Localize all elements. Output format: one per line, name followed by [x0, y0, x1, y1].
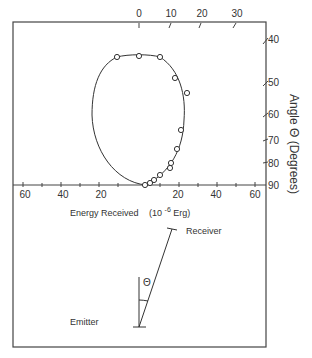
theta-label: Θ [143, 277, 151, 288]
x-axis-unit: (10 [149, 208, 162, 218]
data-points [114, 53, 189, 187]
data-point [136, 53, 141, 58]
top-tick-label: 0 [136, 8, 142, 19]
data-point [168, 160, 173, 165]
right-tick-label: 90 [268, 180, 280, 191]
bottom-tick-label: 40 [57, 189, 69, 200]
data-point [147, 180, 152, 185]
data-point [157, 172, 162, 177]
x-axis-unit-suffix: Erg) [173, 208, 190, 218]
bottom-tick-label: 20 [172, 189, 184, 200]
y-axis-title: Angle Θ (Degrees) [287, 94, 301, 194]
right-tick-label: 40 [268, 34, 280, 45]
right-tick-label: 80 [268, 158, 280, 169]
right-tick-label: 50 [268, 77, 280, 88]
right-tick-label: 70 [268, 135, 280, 146]
bottom-tick-label: 60 [19, 189, 31, 200]
data-point [174, 146, 179, 151]
data-point [178, 127, 183, 132]
chart-figure: 0 10 20 30 40 50 60 70 80 90 Angle Θ (De… [0, 0, 312, 358]
bottom-axis-labels: 60 40 20 20 40 60 [19, 189, 261, 200]
top-axis [139, 23, 236, 28]
data-point [114, 54, 119, 59]
right-axis-labels: 40 50 60 70 80 90 [268, 34, 280, 191]
receiver-label: Receiver [186, 226, 222, 236]
x-axis-title: Energy Received (10 -6 Erg) [70, 204, 190, 218]
data-point [157, 54, 162, 59]
top-tick-label: 20 [196, 8, 208, 19]
data-point [184, 90, 189, 95]
emitter-label: Emitter [70, 317, 99, 327]
data-point [167, 165, 172, 170]
bottom-tick-label: 60 [249, 189, 261, 200]
top-axis-labels: 0 10 20 30 [136, 8, 243, 19]
top-tick-label: 30 [231, 8, 243, 19]
right-tick-label: 60 [268, 109, 280, 120]
x-axis-title-text: Energy Received [70, 208, 139, 218]
bottom-tick-label: 40 [210, 189, 222, 200]
data-point [142, 182, 147, 187]
angle-arc [139, 300, 148, 301]
top-tick-label: 10 [165, 8, 177, 19]
bottom-tick-label: 20 [95, 189, 107, 200]
data-point [172, 75, 177, 80]
x-axis-unit-exponent: -6 [165, 206, 171, 213]
geometry-diagram [133, 228, 177, 327]
svg-text:Energy Received (10: Energy Received (10 -6 Erg) [70, 204, 190, 218]
